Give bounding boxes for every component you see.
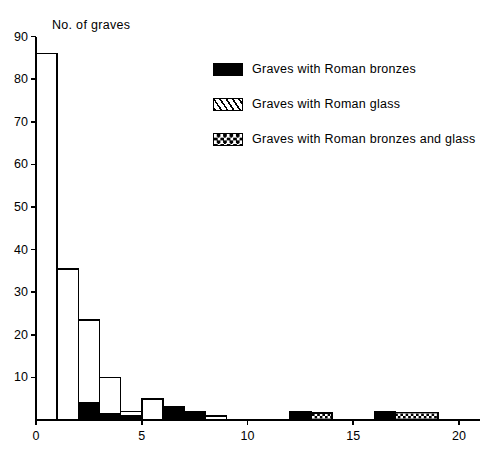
y-axis-tick-label: 90 [0,32,28,42]
bar-segment [99,414,120,420]
y-axis-tick-label: 70 [0,117,28,127]
x-axis-tick-label: 20 [444,429,474,443]
bar-segment [184,411,205,420]
x-axis-tick-label: 10 [233,429,263,443]
bar-segment [290,411,311,420]
bar-segment [396,412,438,420]
bar-segment [78,320,99,403]
y-axis-tick-label: 20 [0,330,28,340]
histogram-chart: No. of graves 908070605040302010 0510152… [0,0,498,467]
y-axis-tick-label: 10 [0,372,28,382]
chart-legend: Graves with Roman bronzes Graves with Ro… [213,62,493,167]
legend-item: Graves with Roman glass [213,97,493,111]
solid-black-swatch [213,63,243,76]
legend-item: Graves with Roman bronzes and glass [213,132,493,146]
legend-item-label: Graves with Roman glass [252,97,400,111]
bar-segment [57,269,78,420]
legend-item-label: Graves with Roman bronzes [252,62,416,76]
bar-segment [311,413,332,420]
bar-segment [36,54,57,420]
y-axis-tick-label: 30 [0,287,28,297]
y-axis-tick-label: 60 [0,159,28,169]
x-axis-tick-label: 0 [21,429,51,443]
y-axis-tick-label: 50 [0,202,28,212]
checkered-swatch [213,133,243,146]
x-axis-tick-label: 5 [127,429,157,443]
x-axis-tick-label: 15 [338,429,368,443]
legend-item: Graves with Roman bronzes [213,62,493,76]
bar-segment [121,411,142,415]
legend-item-label: Graves with Roman bronzes and glass [252,132,475,146]
bar-segment [78,403,99,420]
bar-segment [99,377,120,413]
hatched-swatch [213,98,243,111]
bar-segment [142,399,163,420]
y-axis-tick-label: 40 [0,245,28,255]
bar-segment [374,411,395,420]
y-axis-tick-label: 80 [0,74,28,84]
bar-segment [163,407,184,420]
